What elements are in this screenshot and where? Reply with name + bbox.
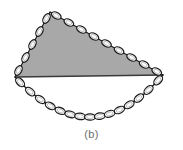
figure-caption: (b) — [0, 128, 183, 140]
chain-link — [85, 114, 96, 121]
figure-container: (b) — [0, 0, 183, 150]
